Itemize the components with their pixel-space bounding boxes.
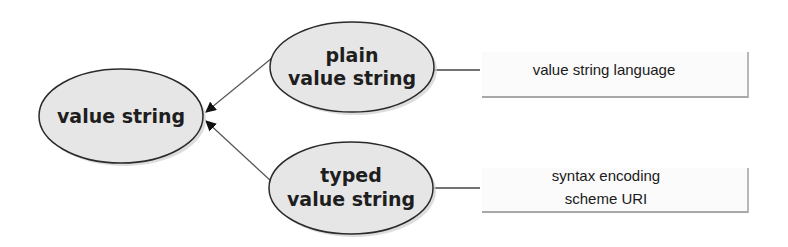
box-syntax-encoding-scheme-uri[interactable]: syntax encoding scheme URI <box>482 167 748 214</box>
node-typed-value-string[interactable]: typed value string <box>269 142 436 237</box>
box-value-string-language[interactable]: value string language <box>482 52 748 98</box>
node-label-line1: typed <box>320 164 382 186</box>
node-value-string[interactable]: value string <box>39 69 206 166</box>
node-label-line2: value string <box>288 67 416 89</box>
edge-plain-to-root <box>206 58 272 112</box>
edge-typed-to-root <box>206 121 272 182</box>
box-label: value string language <box>533 61 676 78</box>
node-label-line2: value string <box>287 188 415 210</box>
diagram-canvas: value string plain value string typed va… <box>0 0 788 247</box>
box-label-line1: syntax encoding <box>552 167 660 184</box>
node-plain-value-string[interactable]: plain value string <box>270 22 437 115</box>
node-label-line1: plain <box>326 44 379 66</box>
box-label-line2: scheme URI <box>565 190 648 207</box>
node-label: value string <box>57 105 185 127</box>
